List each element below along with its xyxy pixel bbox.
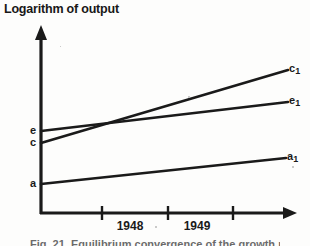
figure-page: Logarithm of output e c a c1 e1 xyxy=(0,0,310,246)
figure-caption-fragment: Fig. 21. Equilibrium convergence of the … xyxy=(30,238,280,246)
series-end-label-a1: a1 xyxy=(287,150,299,164)
series-end-label-e1: e1 xyxy=(289,94,301,108)
x-axis-tick-label-1948: 1948 xyxy=(108,219,152,233)
scan-speck xyxy=(188,96,190,98)
series-end-label-c1-subscript: 1 xyxy=(295,66,300,76)
line-chart-plot xyxy=(0,0,310,246)
y-axis-label-a: a xyxy=(22,177,36,189)
y-axis-label-e: e xyxy=(22,124,36,136)
series-end-label-a1-subscript: 1 xyxy=(293,154,298,164)
x-axis-arrowhead xyxy=(283,207,297,219)
y-axis-label-c: c xyxy=(22,136,36,148)
y-axis-arrowhead xyxy=(35,25,47,40)
scan-speck xyxy=(292,166,294,168)
series-end-label-c1: c1 xyxy=(289,62,301,76)
scan-speck xyxy=(155,226,157,228)
scan-speck xyxy=(60,46,61,47)
x-axis-tick-label-1949: 1949 xyxy=(175,219,219,233)
series-line-a xyxy=(41,158,286,184)
series-end-label-e1-subscript: 1 xyxy=(295,98,300,108)
